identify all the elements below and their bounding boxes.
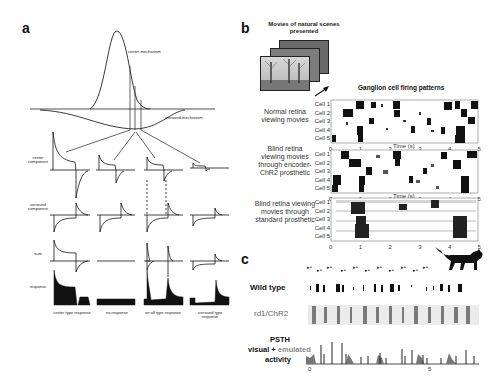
panel-c-letter: c: [241, 251, 249, 267]
col-label-on-off-type: on off type response: [143, 311, 183, 315]
row-label-wild-type: Wild type: [250, 283, 285, 292]
svg-text:▸•: ▸•: [317, 267, 322, 273]
col-label-no-response: no response: [97, 311, 137, 315]
svg-text:▸•: ▸•: [401, 264, 406, 270]
raster2-cell-labels: Cell 1Cell 2Cell 3Cell 4Cell 5: [308, 150, 330, 193]
raster-normal: [331, 100, 479, 144]
raster3-cell-labels: Cell 1Cell 2Cell 3Cell 4Cell 5: [308, 198, 330, 241]
svg-text:▸•: ▸•: [413, 267, 418, 273]
svg-text:▸•: ▸•: [327, 264, 332, 270]
movie-frame-front: [260, 56, 310, 91]
svg-text:▸•: ▸•: [341, 267, 346, 273]
raster1-x-label: Time (s): [393, 143, 415, 149]
raster-standard-prosthetic: [331, 198, 479, 242]
svg-text:▸•: ▸•: [377, 264, 382, 270]
component-waveforms: [0, 0, 250, 330]
svg-text:▸•: ▸•: [365, 267, 370, 273]
col-label-center-type: center type response: [52, 311, 92, 315]
psth-chart: [306, 336, 481, 366]
row-label-rd1-chr2: rd1/ChR2: [254, 309, 288, 318]
svg-text:▸•: ▸•: [353, 264, 358, 270]
raster-title: Ganglion cell firing patterns: [358, 84, 444, 91]
psth-label-line3: activity: [265, 355, 291, 364]
row-label-encoder: Blind retina viewing movies through enco…: [255, 145, 315, 177]
row-label-normal: Normal retina viewing movies: [255, 108, 315, 124]
col-label-surround-type: surround type response: [190, 311, 230, 319]
svg-text:▸•: ▸•: [307, 264, 312, 270]
svg-text:▸•: ▸•: [389, 267, 394, 273]
stimulus-label: Movies of natural scenes presented: [264, 21, 344, 35]
svg-text:▸•: ▸•: [423, 264, 428, 270]
panel-b-letter: b: [241, 20, 250, 36]
psth-label-visual: visual +: [248, 345, 278, 354]
raster-wild-type: [308, 282, 483, 294]
fish-and-cat-illustration: ▸•▸•▸•▸•▸•▸•▸•▸•▸•▸•▸•: [305, 243, 485, 273]
cat-icon: [435, 247, 483, 270]
psth-label-line1: PSTH: [270, 335, 290, 344]
raster1-cell-labels: Cell 1Cell 2Cell 3Cell 4Cell 5: [308, 100, 330, 143]
psth-x-tick-0: 0: [308, 366, 311, 372]
psth-x-tick-5: 5: [428, 366, 431, 372]
psth-label-line2: visual + emulated: [248, 345, 311, 354]
raster-encoder-chr2: [331, 150, 479, 194]
raster-rd1-chr2: [306, 303, 481, 327]
